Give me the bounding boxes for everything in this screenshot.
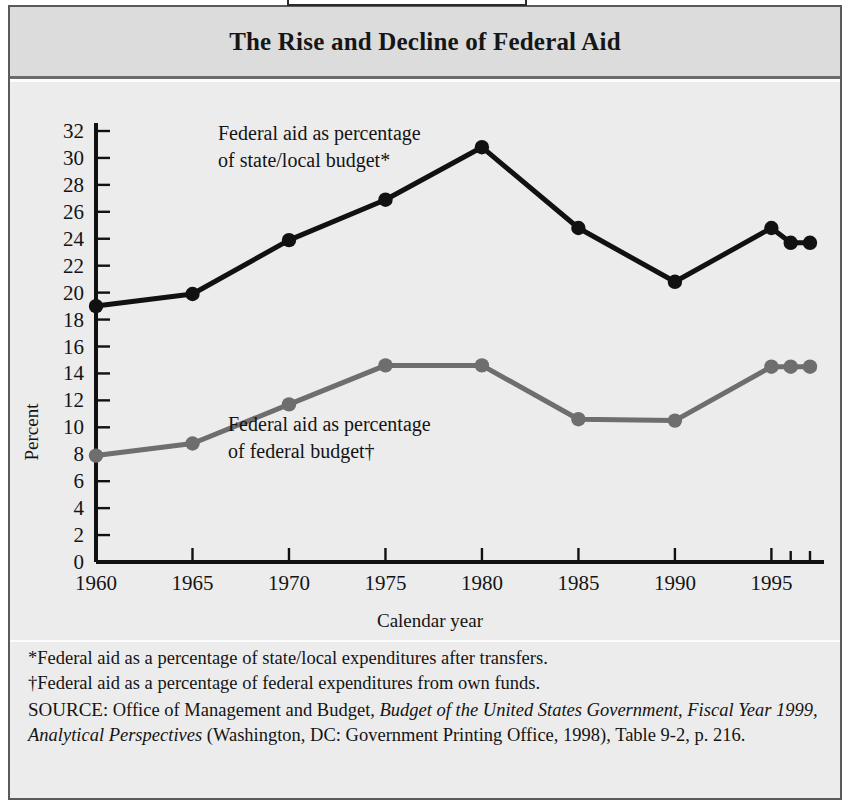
annotation-federal-line1: Federal aid as percentage bbox=[228, 413, 431, 436]
data-point bbox=[282, 233, 296, 247]
y-axis-tick-label: 4 bbox=[74, 496, 85, 520]
data-point bbox=[282, 397, 296, 411]
x-axis-tick-label: 1960 bbox=[75, 571, 117, 595]
x-axis-tick-label: 1970 bbox=[268, 571, 310, 595]
x-axis-tick-label: 1995 bbox=[750, 571, 792, 595]
y-axis-tick-label: 18 bbox=[63, 308, 84, 332]
y-axis-tick-label: 22 bbox=[63, 254, 84, 278]
data-point bbox=[784, 360, 798, 374]
data-point bbox=[571, 221, 585, 235]
y-axis-tick-label: 6 bbox=[74, 469, 85, 493]
annotation-federal-line2: of federal budget† bbox=[228, 440, 375, 463]
series-line bbox=[96, 147, 810, 306]
source-text-2: (Washington, DC: Government Printing Off… bbox=[202, 725, 745, 745]
figure-title: The Rise and Decline of Federal Aid bbox=[229, 28, 621, 56]
footnote-star: *Federal aid as a percentage of state/lo… bbox=[28, 646, 822, 671]
data-point bbox=[475, 358, 489, 372]
y-axis-tick-label: 12 bbox=[63, 388, 84, 412]
x-axis-tick-label: 1985 bbox=[557, 571, 599, 595]
data-point bbox=[571, 412, 585, 426]
y-axis: 02468101214161820222426283032 bbox=[63, 119, 110, 574]
data-point bbox=[185, 436, 199, 450]
data-point bbox=[668, 413, 682, 427]
chart-panel: 02468101214161820222426283032 1960196519… bbox=[10, 82, 840, 640]
figure-title-band: The Rise and Decline of Federal Aid bbox=[10, 7, 840, 79]
x-axis-tick-label: 1990 bbox=[654, 571, 696, 595]
y-axis-tick-label: 24 bbox=[63, 227, 85, 251]
y-axis-tick-label: 30 bbox=[63, 146, 84, 170]
x-axis: 19601965197019751980198519901995 bbox=[75, 548, 824, 595]
annotation-state-local-line2: of state/local budget* bbox=[218, 149, 390, 172]
x-axis-tick-label: 1965 bbox=[171, 571, 213, 595]
x-axis-tick-label: 1975 bbox=[364, 571, 406, 595]
data-point bbox=[803, 236, 817, 250]
annotation-federal: Federal aid as percentage of federal bud… bbox=[228, 413, 431, 463]
source-note: SOURCE: Office of Management and Budget,… bbox=[28, 697, 822, 748]
y-axis-tick-label: 16 bbox=[63, 335, 84, 359]
y-axis-tick-label: 8 bbox=[74, 442, 85, 466]
annotation-state-local-line1: Federal aid as percentage bbox=[218, 122, 421, 145]
y-axis-tick-label: 14 bbox=[63, 361, 85, 385]
line-chart: 02468101214161820222426283032 1960196519… bbox=[10, 82, 840, 640]
series-state-local-budget bbox=[89, 140, 817, 313]
x-axis-tick-label: 1980 bbox=[461, 571, 503, 595]
data-point bbox=[89, 448, 103, 462]
data-point bbox=[378, 193, 392, 207]
data-point bbox=[784, 236, 798, 250]
data-point bbox=[89, 299, 103, 313]
data-point bbox=[475, 140, 489, 154]
source-label: SOURCE bbox=[28, 699, 103, 720]
annotation-state-local: Federal aid as percentage of state/local… bbox=[218, 122, 421, 172]
footnote-dagger: †Federal aid as a percentage of federal … bbox=[28, 671, 822, 696]
data-point bbox=[668, 275, 682, 289]
y-axis-tick-label: 26 bbox=[63, 200, 84, 224]
figure-number-tab: FIGURE 3.2 bbox=[287, 0, 527, 6]
data-point bbox=[764, 221, 778, 235]
series-line bbox=[96, 365, 810, 455]
y-axis-tick-label: 2 bbox=[74, 523, 85, 547]
series-federal-budget bbox=[89, 358, 817, 463]
data-point bbox=[764, 360, 778, 374]
y-axis-label: Percent bbox=[21, 403, 42, 461]
figure-notes: *Federal aid as a percentage of state/lo… bbox=[10, 642, 840, 798]
y-axis-tick-label: 20 bbox=[63, 281, 84, 305]
y-axis-tick-label: 28 bbox=[63, 173, 84, 197]
data-point bbox=[185, 287, 199, 301]
source-text-1: : Office of Management and Budget, bbox=[103, 700, 380, 720]
x-axis-label: Calendar year bbox=[377, 610, 484, 631]
y-axis-tick-label: 32 bbox=[63, 119, 84, 143]
data-point bbox=[378, 358, 392, 372]
data-point bbox=[803, 360, 817, 374]
y-axis-tick-label: 10 bbox=[63, 415, 84, 439]
